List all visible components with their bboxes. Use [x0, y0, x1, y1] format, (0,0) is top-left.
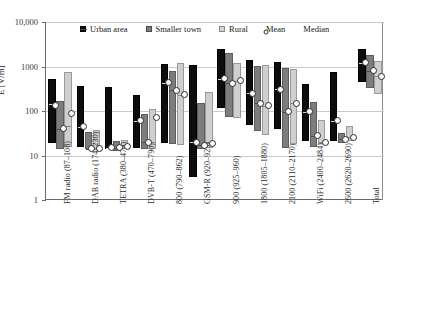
- bar: [274, 62, 281, 129]
- x-axis-tick: 2600 (2620–2690): [344, 143, 353, 204]
- bar: [330, 72, 337, 141]
- mean-marker: [322, 139, 329, 146]
- mean-marker: [209, 140, 216, 147]
- mean-marker: [137, 117, 144, 124]
- mean-marker: [193, 139, 200, 146]
- legend-item: Rural: [219, 24, 248, 34]
- mean-marker: [201, 142, 208, 149]
- y-axis-tickmark: [42, 200, 46, 201]
- bar: [233, 63, 240, 119]
- mean-marker: [145, 139, 152, 146]
- y-axis-title-wrap: E [V/m]: [0, 0, 42, 310]
- mean-marker: [378, 73, 385, 80]
- mean-marker: [249, 90, 256, 97]
- legend-label: Median: [303, 24, 329, 34]
- bar: [254, 66, 261, 132]
- x-axis-tick: GSM-R (920–925): [203, 142, 212, 204]
- x-axis-tick: WiFi (2400–2484): [316, 143, 325, 204]
- legend-label: Smaller town: [156, 24, 202, 34]
- x-axis-tick: 2100 (2110–2170): [288, 143, 297, 204]
- x-axis-tick: 1800 (1805–1880): [260, 143, 269, 204]
- mean-marker: [80, 123, 87, 130]
- mean-marker: [342, 136, 349, 143]
- legend-swatch-icon: [219, 26, 225, 32]
- y-axis-title: E [V/m]: [0, 65, 6, 95]
- legend-swatch-icon: [80, 29, 87, 30]
- bar: [48, 79, 55, 144]
- bar: [177, 63, 184, 145]
- bar: [77, 86, 84, 146]
- bar-group: [356, 21, 384, 199]
- x-axis-tick: FM radio (87–108): [63, 141, 72, 204]
- legend-label: Mean: [266, 24, 285, 34]
- x-axis-tick: 800 (790–862): [175, 155, 184, 204]
- legend-swatch-icon: [146, 26, 152, 32]
- mean-marker: [314, 132, 321, 139]
- legend-item: Mean: [266, 24, 285, 34]
- chart-legend: Urban areaSmaller townRuralMeanMedian: [80, 24, 347, 34]
- mean-marker: [229, 80, 236, 87]
- legend-item: Urban area: [80, 24, 128, 34]
- legend-swatch-icon: [263, 29, 268, 34]
- bar: [189, 65, 196, 178]
- x-axis-tick: TETRA (380–470): [119, 142, 128, 204]
- bar: [105, 87, 112, 150]
- mean-marker: [153, 114, 160, 121]
- mean-marker: [68, 110, 75, 117]
- x-axis-tick-labels: FM radio (87–108)DAB radio (174–230)TETR…: [45, 202, 383, 308]
- mean-marker: [257, 100, 264, 107]
- x-axis-tick: DVB-T (470–790): [147, 143, 156, 204]
- chart-figure: 110100100010,000 E [V/m] Urban areaSmall…: [0, 0, 426, 310]
- legend-label: Urban area: [90, 24, 128, 34]
- legend-label: Rural: [229, 24, 248, 34]
- legend-item: Smaller town: [146, 24, 202, 34]
- x-axis-tick: Total: [372, 187, 381, 204]
- bar: [161, 64, 168, 143]
- x-axis-tick: DAB radio (174–230): [91, 131, 100, 204]
- legend-item: Median: [303, 24, 329, 34]
- mean-marker: [173, 87, 180, 94]
- x-axis-tick: 900 (925–960): [232, 155, 241, 204]
- mean-marker: [350, 134, 357, 141]
- mean-marker: [165, 79, 172, 86]
- mean-marker: [334, 117, 341, 124]
